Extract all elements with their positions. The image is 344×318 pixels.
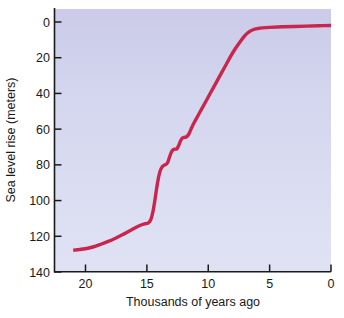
x-tick-label: 10: [201, 277, 215, 291]
y-tick-label: 80: [36, 158, 50, 172]
x-tick-label: 0: [328, 277, 335, 291]
y-tick-label: 40: [36, 87, 50, 101]
x-axis-title: Thousands of years ago: [126, 295, 260, 309]
x-tick-label: 15: [140, 277, 154, 291]
y-tick-label: 140: [29, 266, 50, 280]
y-tick-label: 20: [36, 51, 50, 65]
y-tick-label: 60: [36, 123, 50, 137]
y-tick-label: 0: [43, 16, 50, 30]
plot-area-background: [54, 9, 331, 272]
y-tick-label: 120: [29, 230, 50, 244]
sea-level-curve-inferred: [73, 250, 78, 251]
sea-level-rise-chart: 020406080100120140 20151050 Thousands of…: [0, 0, 344, 318]
x-tick-label: 5: [266, 277, 273, 291]
x-tick-label: 20: [79, 277, 93, 291]
y-axis-title: Sea level rise (meters): [4, 77, 18, 202]
figure-container: 020406080100120140 20151050 Thousands of…: [0, 0, 344, 318]
y-tick-label: 100: [29, 194, 50, 208]
